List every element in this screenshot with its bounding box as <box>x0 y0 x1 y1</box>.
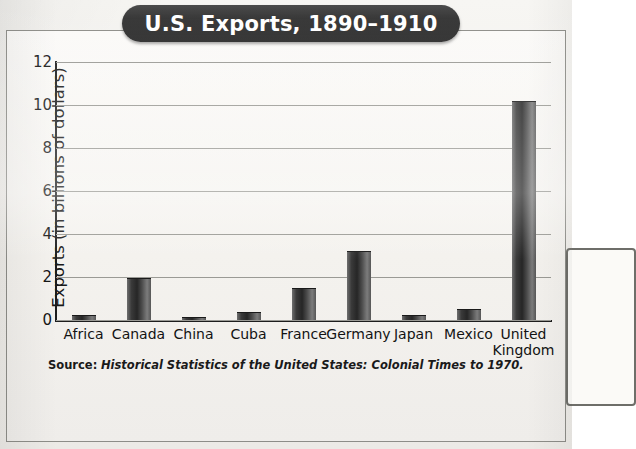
bar-canada <box>127 278 151 320</box>
bar-china <box>182 317 206 320</box>
x-tick-label-united-kingdom: United Kingdom <box>481 326 567 358</box>
gridline: 0 <box>56 320 551 321</box>
gridline: 4 <box>56 234 551 235</box>
chart-title-banner: U.S. Exports, 1890–1910 <box>122 5 460 42</box>
gridline: 8 <box>56 148 551 149</box>
adjacent-panel-outline <box>566 248 636 406</box>
source-citation: Historical Statistics of the United Stat… <box>101 358 524 372</box>
bar-africa <box>72 315 96 320</box>
y-tick-label: 8 <box>42 139 52 157</box>
y-tick-label: 12 <box>33 53 52 71</box>
page-title: U.S. Exports, 1890–1910 <box>145 12 438 36</box>
bar-mexico <box>457 309 481 320</box>
y-tick-label: 2 <box>42 268 52 286</box>
y-tick-label: 4 <box>42 225 52 243</box>
gridline: 12 <box>56 62 551 63</box>
plot-area: 024681012 AfricaCanadaChinaCubaFranceGer… <box>56 62 551 320</box>
bar-cuba <box>237 312 261 320</box>
y-tick-label: 6 <box>42 182 52 200</box>
gridline: 10 <box>56 105 551 106</box>
y-tick-label: 10 <box>33 96 52 114</box>
source-note: Source: Historical Statistics of the Uni… <box>48 358 524 372</box>
bar-france <box>292 288 316 320</box>
bar-united-kingdom <box>512 101 536 320</box>
gridline: 6 <box>56 191 551 192</box>
bar-japan <box>402 315 426 320</box>
bar-germany <box>347 251 371 320</box>
source-label: Source: <box>48 358 97 372</box>
